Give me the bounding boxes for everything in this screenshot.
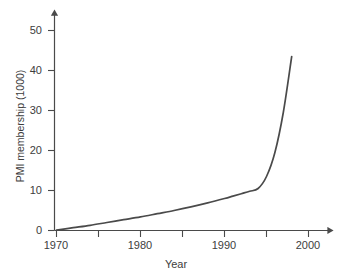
plot-area	[0, 0, 352, 279]
x-axis-label: Year	[0, 258, 352, 270]
y-tick-label-0: 0	[16, 224, 42, 236]
x-tick-label-1990: 1990	[204, 239, 244, 251]
data-series-line	[57, 57, 292, 231]
x-tick-marks	[57, 231, 309, 238]
y-tick-label-50: 50	[16, 24, 42, 36]
x-tick-label-1970: 1970	[36, 239, 76, 251]
y-axis-label: PMI membership (1000)	[14, 61, 26, 191]
chart-figure: 50 40 30 20 10 0 1970 1980 1990 2000 PMI…	[0, 0, 352, 279]
y-tick-marks	[48, 31, 55, 231]
x-tick-label-1980: 1980	[120, 239, 160, 251]
x-tick-label-2000: 2000	[288, 239, 328, 251]
